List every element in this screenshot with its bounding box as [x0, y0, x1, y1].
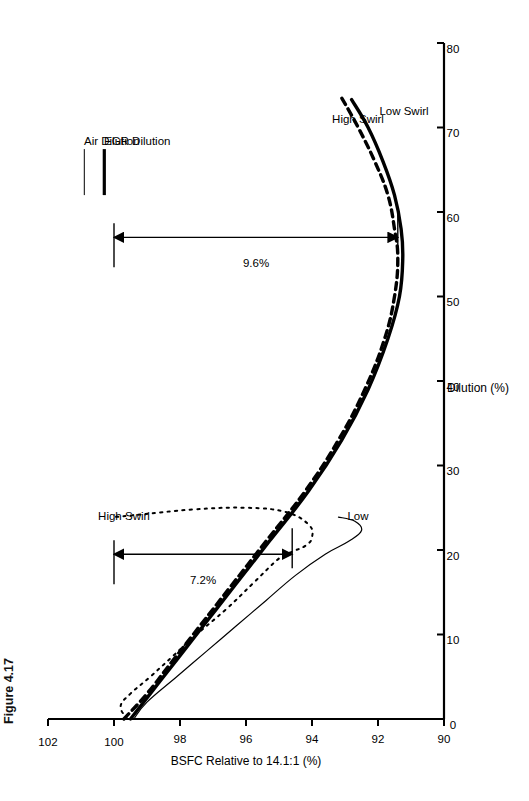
- chart-stage: 01020304050607080 9092949698100102 Dilut…: [30, 21, 500, 781]
- figure-caption: Figure 4.17: [2, 658, 16, 724]
- series-egr-low-swirl: [130, 99, 402, 718]
- y-tick-label: 100: [104, 735, 124, 747]
- x-tick-label: 50: [446, 296, 459, 308]
- x-tick-label: 70: [446, 127, 459, 139]
- egr-span-label: 9.6%: [242, 257, 268, 269]
- y-tick-label: 94: [305, 732, 318, 744]
- x-tick-label: 0: [449, 719, 456, 731]
- y-tick-label: 102: [38, 735, 58, 747]
- y-tick-label: 92: [371, 732, 384, 744]
- x-tick-label: 30: [446, 465, 459, 477]
- series-air-low-swirl: [133, 517, 361, 719]
- curve-label-egr-low-swirl: Low Swirl: [379, 104, 428, 116]
- y-tick-label: 96: [239, 732, 252, 744]
- series-egr-high-swirl: [123, 97, 397, 718]
- y-tick-label: 98: [173, 732, 186, 744]
- air-span-label: 7.2%: [189, 574, 215, 586]
- y-axis-title: BSFC Relative to 14.1:1 (%): [170, 754, 321, 768]
- curve-label-egr-high-swirl: High Swirl: [332, 113, 384, 125]
- curve-label-air-low-swirl: Low: [347, 510, 368, 522]
- x-tick-label: 10: [446, 634, 459, 646]
- x-tick-label: 20: [446, 550, 459, 562]
- x-tick-label: 80: [446, 43, 459, 55]
- plot-area: 01020304050607080 9092949698100102 Dilut…: [30, 21, 500, 781]
- x-axis-title: Dilution (%): [446, 381, 508, 395]
- y-tick-label: 90: [437, 732, 450, 744]
- curve-label-air-high-swirl: High Swirl: [98, 510, 150, 522]
- x-tick-label: 60: [446, 212, 459, 224]
- figure-page: 01020304050607080 9092949698100102 Dilut…: [0, 0, 529, 801]
- legend-label-1: EGR Dilution: [104, 135, 170, 147]
